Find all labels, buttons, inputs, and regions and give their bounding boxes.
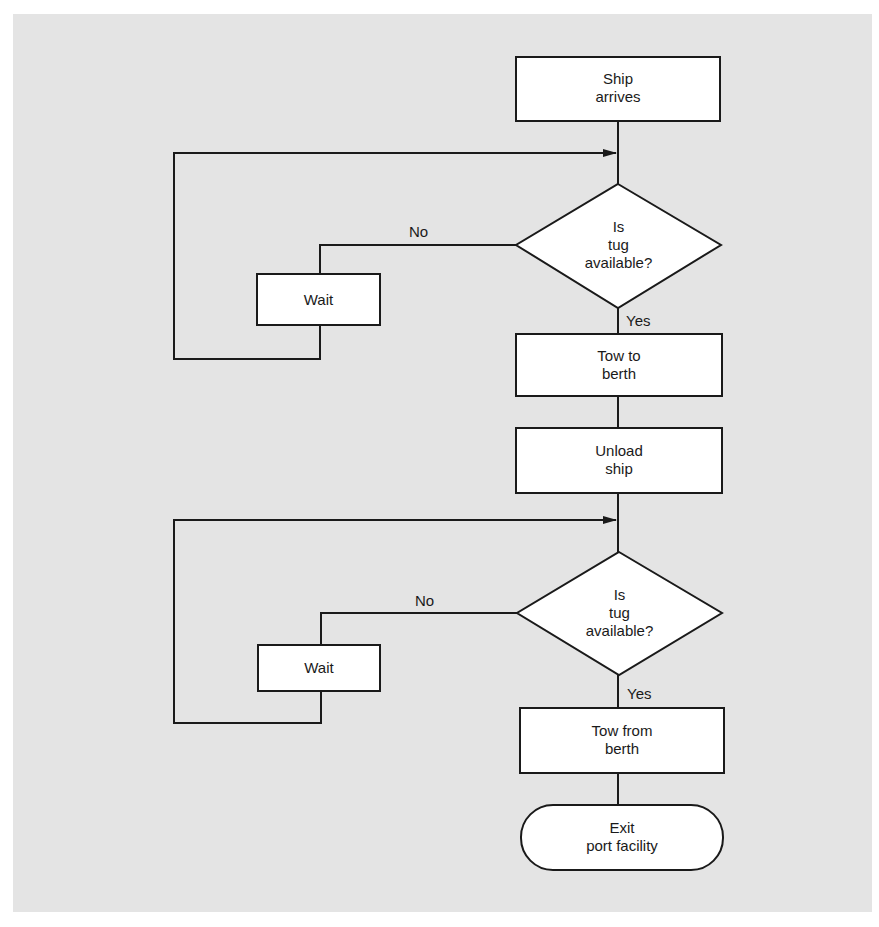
decision-2-label: Is tug available? [517, 586, 722, 640]
edge-label-yes-2: Yes [627, 686, 651, 702]
unload-ship-label: Unload ship [516, 442, 722, 478]
wait-1-label: Wait [257, 291, 380, 309]
edge-decision2-no [321, 613, 517, 645]
flowchart-canvas [0, 0, 879, 927]
edge-label-yes-1: Yes [626, 313, 650, 329]
edge-decision1-no [320, 245, 516, 274]
tow-from-berth-label: Tow from berth [520, 722, 724, 758]
edge-label-no-2: No [415, 593, 434, 609]
ship-arrives-label: Ship arrives [516, 70, 720, 106]
edge-label-no-1: No [409, 224, 428, 240]
exit-label: Exit port facility [521, 819, 723, 855]
wait-2-label: Wait [258, 659, 380, 677]
decision-1-label: Is tug available? [516, 218, 721, 272]
tow-to-berth-label: Tow to berth [516, 347, 722, 383]
